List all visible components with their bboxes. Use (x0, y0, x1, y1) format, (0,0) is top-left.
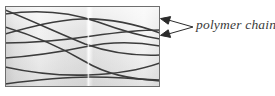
upper-arrowhead (161, 17, 171, 25)
polymer-chains-figure: polymer chains (0, 0, 275, 96)
diagram-canvas (0, 0, 275, 96)
polymer-chains-leader (161, 17, 194, 38)
lower-arrowhead (161, 30, 171, 38)
polymer-chains-label: polymer chains (196, 17, 275, 32)
upper-leader-line (167, 20, 193, 27)
lower-leader-line (167, 27, 193, 34)
highlight-band (88, 7, 90, 87)
